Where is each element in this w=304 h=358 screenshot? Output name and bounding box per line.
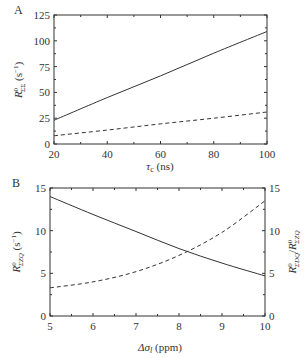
x-tick-label: 20 — [49, 148, 61, 160]
panel-b-right-y-axis-label: R0ΣDQ/R0ΣZQ — [286, 231, 301, 275]
panel-a-x-ticks: 20406080100 — [49, 15, 276, 160]
series-dashed-line — [50, 201, 265, 288]
panel-a-series — [54, 32, 267, 136]
y-tick-label: 100 — [34, 35, 51, 47]
y-tick-label: 0 — [45, 138, 51, 150]
y-tick-label: 125 — [34, 9, 51, 21]
panel-a-y-axis-label: R0ΣΣ (s−1) — [12, 62, 27, 100]
x-tick-label: 60 — [155, 148, 167, 160]
panel-a: A 20406080100 0255075100125 τc (ns) R0ΣΣ… — [12, 3, 276, 174]
series-solid-line — [54, 32, 267, 121]
panel-a-label: A — [14, 3, 23, 17]
x-tick-label: 40 — [102, 148, 114, 160]
right-y-tick-label: 0 — [269, 310, 275, 322]
panel-b-series — [50, 197, 265, 288]
x-tick-label: 8 — [176, 320, 182, 332]
panel-b-y-ticks: 051015 — [35, 182, 265, 322]
y-tick-label: 50 — [39, 86, 51, 98]
x-tick-label: 5 — [47, 320, 53, 332]
panel-b-frame — [50, 188, 265, 316]
y-tick-label: 0 — [41, 310, 47, 322]
y-tick-label: 15 — [35, 182, 47, 194]
panel-b-x-axis-label: Δσl (ppm) — [137, 341, 182, 355]
y-tick-label: 25 — [39, 112, 51, 124]
panel-a-y-ticks: 0255075100125 — [34, 9, 268, 150]
x-tick-label: 100 — [259, 148, 276, 160]
panel-a-frame — [54, 15, 267, 144]
right-y-tick-label: 15 — [269, 182, 281, 194]
y-tick-label: 10 — [35, 225, 47, 237]
panel-b-y-axis-label: R0ΣZQ (s−1) — [10, 231, 25, 274]
x-tick-label: 9 — [219, 320, 225, 332]
right-y-tick-label: 10 — [269, 225, 281, 237]
x-tick-label: 6 — [90, 320, 96, 332]
figure: A 20406080100 0255075100125 τc (ns) R0ΣΣ… — [0, 0, 304, 358]
right-y-tick-label: 5 — [269, 267, 275, 279]
series-solid-line — [50, 197, 265, 276]
x-tick-label: 80 — [208, 148, 220, 160]
series-dashed-line — [54, 112, 267, 136]
panel-a-x-axis-label: τc (ns) — [146, 160, 174, 174]
x-tick-label: 7 — [133, 320, 139, 332]
y-tick-label: 5 — [41, 267, 47, 279]
y-tick-label: 75 — [39, 61, 51, 73]
panel-b-label: B — [12, 176, 20, 190]
panel-b: B 5678910 051015 051015 Δσl (ppm) R0ΣZQ … — [10, 176, 301, 355]
